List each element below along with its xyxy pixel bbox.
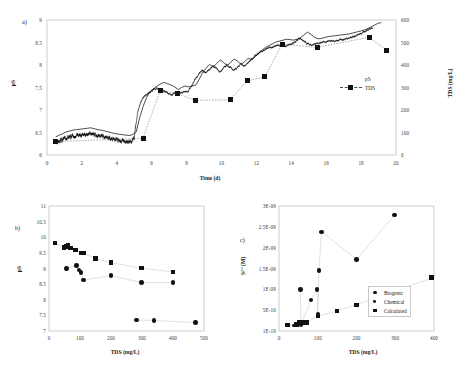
panel-c-ytick: 2.5E-09 [236, 224, 276, 230]
tds-marker [141, 136, 146, 141]
panel-c: c) S²⁻ (M) TDS (mg/L) [228, 198, 456, 366]
panel-b-xtick: 400 [163, 335, 183, 341]
panel-a-ps-series [56, 23, 382, 145]
tds-marker [315, 45, 320, 50]
panel-b-point [139, 266, 144, 271]
panel-c-point [316, 312, 321, 317]
panel-b-point [109, 260, 114, 265]
panel-a-xlabel: Time (d) [170, 175, 250, 181]
panel-b-ytick: 11 [22, 203, 46, 209]
panel-c-ytick: 1.5E-09 [236, 266, 276, 272]
panel-b-point [139, 280, 144, 285]
panel-b-xtick: 200 [101, 335, 121, 341]
legend-square-icon [370, 307, 381, 314]
panel-c-xtick: 100 [308, 335, 328, 341]
panel-b-point [171, 270, 176, 275]
panel-a-xtick: 18 [351, 160, 371, 166]
panel-a-ytick: 7 [20, 107, 42, 113]
panel-b-ytick: 9 [22, 266, 46, 272]
panel-a-ps-noise-band [56, 28, 373, 145]
legend-item-ps: pS [340, 74, 375, 83]
panel-b: b) pS TDS (mg/L) [0, 198, 228, 366]
panel-a-y2tick: 300 [401, 85, 409, 91]
legend-item-biogenic: Biogenic [370, 288, 407, 297]
panel-c-ytick: 1E-09 [236, 286, 276, 292]
panel-c-xlabel: TDS (mg/L) [333, 349, 393, 355]
panel-c-point [298, 287, 303, 292]
panel-a-xtick: 10 [212, 160, 232, 166]
panel-c-xtick: 300 [385, 335, 405, 341]
panel-c-point [304, 322, 307, 325]
panel-a-xtick: 6 [142, 160, 162, 166]
panel-a-y2tick: 400 [401, 62, 409, 68]
panel-b-plot-area [49, 206, 204, 331]
panel-c-point [429, 275, 434, 280]
panel-c-point [299, 321, 302, 324]
legend-item-tds: TDS [340, 83, 375, 92]
panel-b-point [73, 248, 78, 253]
panel-c-point [354, 257, 359, 262]
panel-c-ytick: 2E-09 [236, 245, 276, 251]
panel-a-ytick: 7.5 [20, 85, 42, 91]
legend-small-circle-icon [370, 298, 381, 305]
legend-label: Calculated [384, 308, 407, 314]
panel-a-xtick: 4 [107, 160, 127, 166]
panel-c-xtick: 400 [424, 335, 444, 341]
panel-a-ylabel: pS [10, 68, 16, 98]
panel-a-y2tick: 600 [401, 17, 409, 23]
panel-a-xtick: 8 [177, 160, 197, 166]
tds-marker [367, 35, 372, 40]
panel-b-ytick: 7 [22, 328, 46, 334]
panel-b-ytick: 8 [22, 297, 46, 303]
tds-marker [228, 97, 233, 102]
panel-b-point [171, 280, 176, 285]
panel-b-point [152, 318, 157, 323]
panel-b-xtick: 0 [39, 335, 59, 341]
panel-a-xtick: 16 [316, 160, 336, 166]
panel-c-point [317, 268, 322, 273]
panel-a-ytick: 6 [20, 152, 42, 158]
tds-marker [158, 88, 163, 93]
panel-c-xtick: 200 [347, 335, 367, 341]
legend-line-icon [340, 75, 362, 82]
panel-b-point [74, 263, 79, 268]
panel-b-point [53, 241, 58, 246]
tds-marker [384, 48, 389, 53]
legend-label: Biogenic [384, 290, 403, 296]
legend-label: TDS [365, 85, 375, 91]
tds-marker [53, 139, 58, 144]
panel-a-xtick: 14 [281, 160, 301, 166]
tds-marker [193, 98, 198, 103]
legend-dotted-square-icon [340, 84, 362, 91]
legend-item-chemical: Chemical [370, 297, 407, 306]
panel-a-y2tick: 0 [401, 152, 404, 158]
panel-a-y2label: TDS (mg/L) [447, 53, 453, 113]
panel-b-point [193, 320, 198, 325]
panel-a-ytick: 9 [20, 17, 42, 23]
panel-a-xtick: 2 [72, 160, 92, 166]
panel-b-ytick: 7.5 [22, 312, 46, 318]
panel-c-xtick: 0 [269, 335, 289, 341]
panel-b-label: b) [15, 224, 20, 231]
legend-label: pS [365, 76, 371, 82]
panel-b-ytick: 9.5 [22, 250, 46, 256]
panel-b-ytick: 10 [22, 234, 46, 240]
panel-a-y2tick: 500 [401, 40, 409, 46]
panel-a-ytick: 6.5 [20, 130, 42, 136]
panel-b-xtick: 100 [70, 335, 90, 341]
tds-marker [280, 42, 285, 47]
panel-a-xtick: 12 [246, 160, 266, 166]
legend-label: Chemical [384, 299, 404, 305]
panel-c-legend: Biogenic Chemical Calculated [368, 286, 411, 317]
legend-circle-icon [370, 289, 381, 296]
panel-c-point [319, 230, 324, 235]
panel-a-y2tick: 100 [401, 130, 409, 136]
panel-b-xlabel: TDS (mg/L) [95, 349, 155, 355]
panel-a-ytick: 8.5 [20, 40, 42, 46]
panel-c-point [315, 287, 320, 292]
panel-a: a) pS TDS (mg/L) Time (d) [0, 0, 456, 192]
panel-b-ytick: 8.5 [22, 281, 46, 287]
panel-c-ytick: 5E-10 [236, 307, 276, 313]
panel-b-xtick: 300 [132, 335, 152, 341]
panel-b-ytick: 10.5 [22, 219, 46, 225]
